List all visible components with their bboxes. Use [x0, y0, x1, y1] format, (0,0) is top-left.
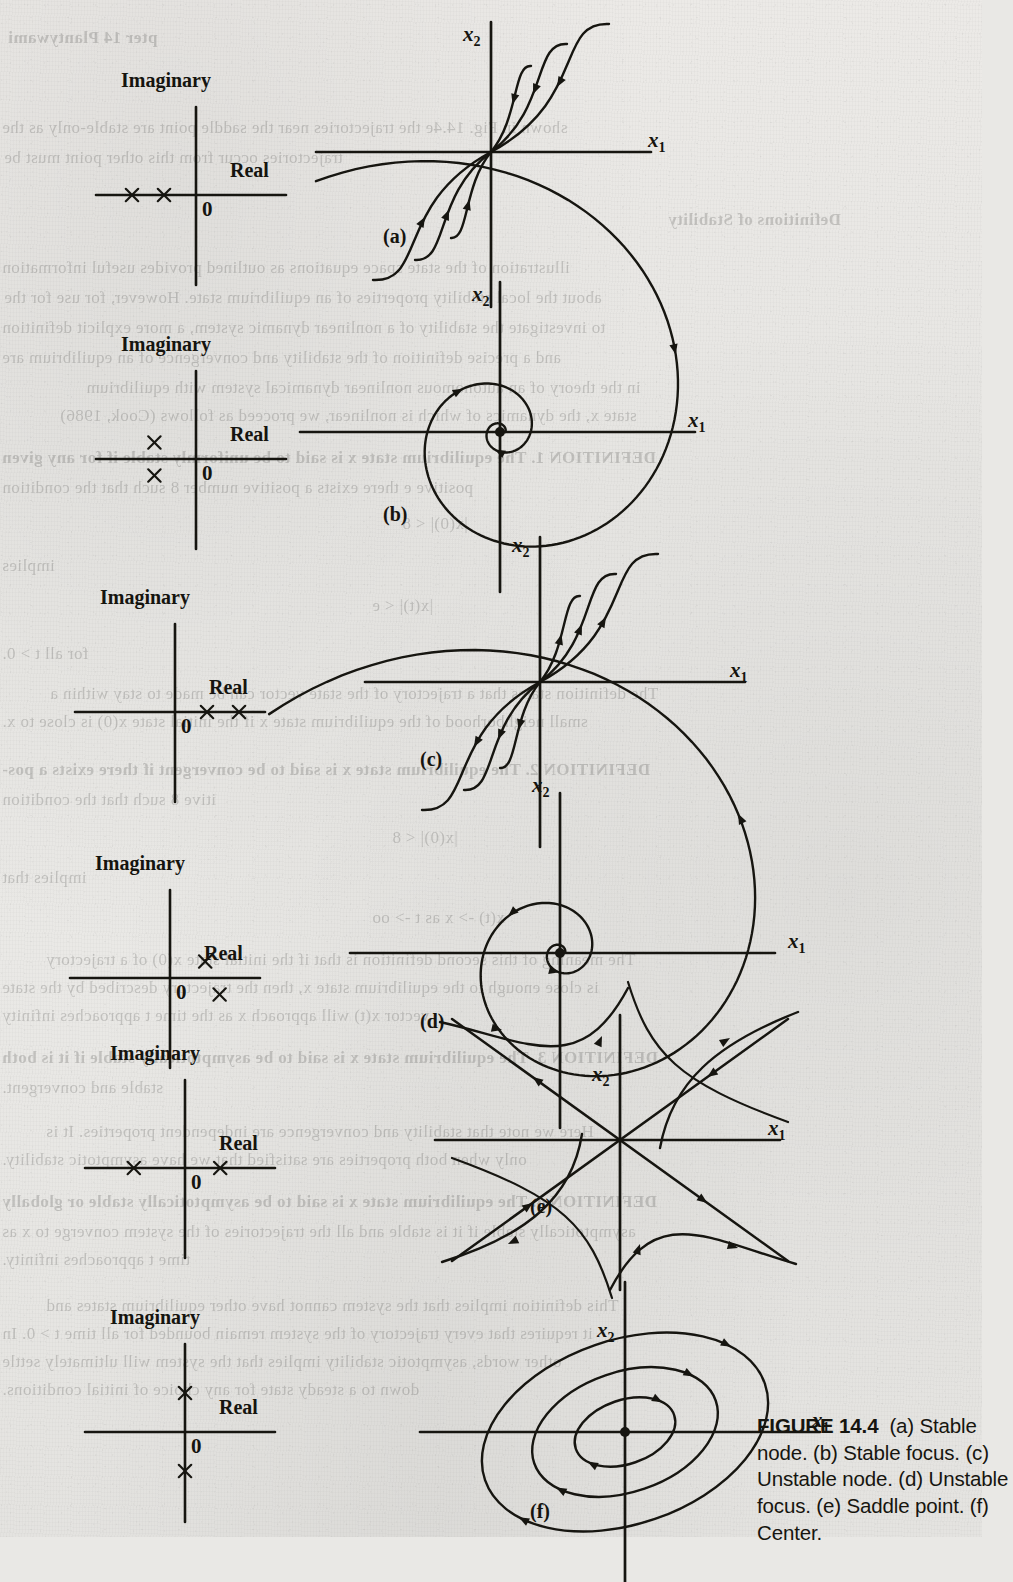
flow-arrowhead	[594, 1036, 602, 1047]
figure-caption: FIGURE 14.4(a) Stable node. (b) Stable f…	[757, 1413, 1013, 1546]
flow-arrowhead	[556, 1487, 567, 1496]
flow-arrowhead	[508, 1236, 519, 1244]
flow-arrowhead	[517, 719, 525, 730]
flow-arrowhead	[588, 1462, 599, 1471]
phase-portrait-e	[405, 990, 835, 1290]
flow-arrowhead	[463, 200, 471, 211]
phase-portrait-c	[325, 532, 755, 832]
imaginary-axis-label-f: Imaginary	[110, 1306, 200, 1329]
caption-part-e: (e) Saddle point.	[816, 1494, 964, 1517]
pole-plot-e	[75, 1068, 305, 1268]
pole-plot-b	[86, 359, 316, 559]
flow-arrowhead	[738, 814, 746, 825]
equilibrium-dot	[495, 427, 505, 437]
flow-arrowhead	[441, 210, 449, 221]
flow-arrowhead	[452, 389, 463, 398]
hyperbolic-trajectory	[660, 1012, 798, 1148]
pole-marker-x	[199, 955, 211, 967]
flow-arrowhead	[416, 217, 425, 228]
flow-arrowhead	[491, 1024, 502, 1032]
imaginary-axis-label-a: Imaginary	[121, 69, 211, 92]
pole-plot-c	[65, 612, 295, 812]
flow-arrowhead	[597, 617, 606, 628]
flow-arrowhead	[498, 728, 506, 739]
equilibrium-dot	[620, 1427, 630, 1437]
pole-plot-f	[75, 1332, 305, 1532]
flow-arrowhead	[574, 624, 582, 635]
caption-part-b: (b) Stable focus.	[813, 1441, 960, 1464]
imaginary-axis-label-c: Imaginary	[100, 586, 190, 609]
equilibrium-dot	[555, 948, 565, 958]
flow-arrowhead	[474, 736, 483, 747]
pole-plot-d	[60, 878, 290, 1078]
hyperbolic-trajectory	[440, 988, 628, 1046]
imaginary-axis-label-d: Imaginary	[95, 852, 185, 875]
trajectory-c	[540, 554, 658, 682]
trajectory-a	[373, 152, 491, 280]
hyperbolic-trajectory	[628, 982, 788, 1122]
flow-arrowhead	[508, 906, 519, 916]
figure-number: FIGURE 14.4	[757, 1414, 878, 1437]
flow-arrowhead	[511, 93, 519, 104]
pole-marker-x	[213, 988, 225, 1000]
imaginary-axis-label-b: Imaginary	[121, 333, 211, 356]
trajectory-c	[422, 682, 540, 810]
flow-arrowhead	[519, 1517, 530, 1526]
flow-arrowhead	[533, 83, 541, 94]
bleedthrough-line: implies	[2, 556, 55, 576]
flow-arrowhead	[633, 1244, 641, 1255]
pole-marker-x	[148, 469, 160, 481]
flow-arrowhead	[720, 1338, 731, 1347]
flow-arrowhead	[557, 76, 566, 87]
x1-axis-label-d: x1	[788, 929, 806, 957]
phase-portrait-a	[276, 2, 706, 302]
bleedthrough-line: pter 14 Plantywami	[8, 28, 157, 48]
hyperbolic-trajectory	[452, 1158, 612, 1298]
flow-arrowhead	[555, 634, 563, 645]
flow-arrowhead	[651, 1394, 662, 1403]
trajectory-a	[491, 24, 609, 152]
pole-marker-x	[148, 436, 160, 448]
flow-arrowhead	[683, 1368, 694, 1377]
